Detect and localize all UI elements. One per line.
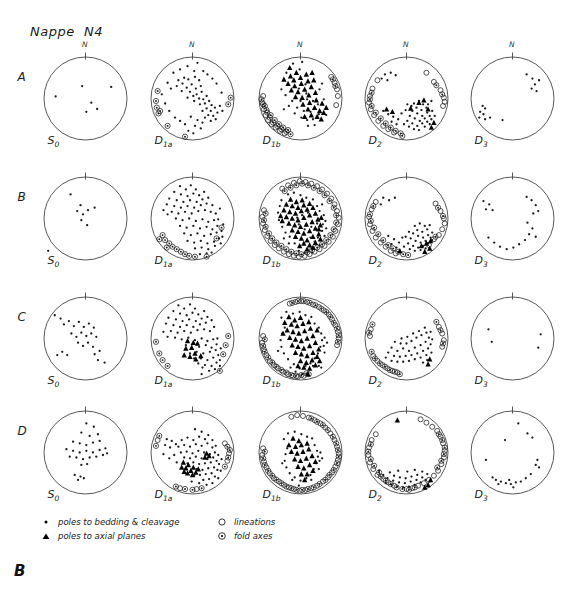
pole-bedding-point	[321, 223, 323, 225]
pole-bedding-point	[178, 312, 180, 314]
pole-bedding-point	[213, 244, 215, 246]
pole-bedding-point	[512, 246, 514, 248]
column-label-text: D	[155, 254, 163, 267]
pole-bedding-point	[166, 213, 168, 215]
pole-bedding-point	[211, 228, 213, 230]
pole-bedding-point	[81, 84, 83, 86]
pole-axial-plane-point	[298, 80, 303, 85]
pole-bedding-point	[316, 103, 318, 105]
fold-axis-point	[222, 464, 227, 469]
pole-bedding-point	[305, 98, 307, 100]
pole-bedding-point	[534, 463, 536, 465]
pole-bedding-point	[181, 219, 183, 221]
pole-bedding-point	[531, 436, 533, 438]
pole-bedding-point	[173, 204, 175, 206]
pole-axial-plane-point	[293, 199, 298, 204]
pole-axial-plane-point	[304, 353, 309, 358]
pole-bedding-point	[173, 190, 175, 192]
fold-axis-point	[153, 443, 158, 448]
pole-bedding-point	[180, 89, 182, 91]
pole-bedding-point	[178, 119, 180, 121]
lineation-point	[374, 77, 379, 82]
pole-bedding-point	[531, 227, 533, 229]
pole-bedding-point	[176, 331, 178, 333]
legend-label-poles-bedding: poles to bedding & cleavage	[58, 517, 179, 527]
stereonet-primitive-circle	[471, 57, 554, 140]
stereonet-primitive-circle	[365, 297, 448, 380]
fold-axis-point	[441, 451, 446, 456]
pole-bedding-point	[187, 78, 189, 80]
legend-label-lineations: lineations	[234, 517, 275, 527]
pole-bedding-point	[217, 353, 219, 355]
pole-axial-plane-point	[304, 471, 309, 476]
column-label-d1a-row-d: D1a	[155, 488, 173, 503]
pole-axial-plane-point	[300, 101, 305, 106]
pole-bedding-point	[93, 206, 95, 208]
pole-axial-plane-point	[298, 338, 303, 343]
pole-bedding-point	[199, 239, 201, 241]
pole-bedding-point	[168, 197, 170, 199]
pole-bedding-point	[188, 199, 190, 201]
pole-bedding-point	[202, 69, 204, 71]
pole-bedding-point	[205, 225, 207, 227]
pole-bedding-point	[491, 476, 493, 478]
pole-bedding-point	[201, 366, 203, 368]
pole-bedding-point	[80, 463, 82, 465]
pole-bedding-point	[304, 314, 306, 316]
pole-bedding-point	[193, 124, 195, 126]
pole-bedding-point	[411, 332, 413, 334]
stereonet-primitive-circle	[151, 297, 234, 380]
pole-bedding-point	[409, 237, 411, 239]
pole-bedding-point	[416, 228, 418, 230]
pole-bedding-point	[162, 453, 164, 455]
pole-bedding-point	[533, 83, 535, 85]
fold-axis-point	[440, 340, 445, 345]
pole-bedding-point	[213, 475, 215, 477]
pole-bedding-point	[406, 470, 408, 472]
pole-bedding-point	[501, 118, 503, 120]
pole-axial-plane-point	[301, 328, 306, 333]
pole-axial-plane-point	[306, 228, 311, 233]
pole-bedding-point	[411, 122, 413, 124]
pole-bedding-point	[517, 422, 519, 424]
pole-bedding-point	[78, 451, 80, 453]
pole-bedding-point	[384, 356, 386, 358]
pole-bedding-point	[423, 125, 425, 127]
pole-bedding-point	[86, 209, 88, 211]
legend: poles to bedding & cleavage poles to axi…	[40, 516, 370, 550]
pole-axial-plane-point	[312, 210, 317, 215]
pole-bedding-point	[183, 210, 185, 212]
stereonet-primitive-circle	[365, 57, 448, 140]
pole-bedding-point	[289, 366, 291, 368]
pole-bedding-point	[523, 238, 525, 240]
lineation-point	[288, 414, 293, 419]
pole-bedding-point	[189, 233, 191, 235]
pole-bedding-point	[426, 233, 428, 235]
pole-bedding-point	[392, 354, 394, 356]
lineation-point	[370, 466, 375, 471]
pole-bedding-point	[317, 113, 319, 115]
pole-bedding-point	[193, 99, 195, 101]
pole-bedding-point	[195, 200, 197, 202]
fold-axis-point	[293, 373, 298, 378]
pole-bedding-point	[425, 331, 427, 333]
stereonet-d-d1b	[252, 404, 349, 501]
pole-bedding-point	[424, 340, 426, 342]
pole-axial-plane-point	[309, 452, 314, 457]
pole-bedding-point	[282, 438, 284, 440]
north-label-col-2: N	[297, 40, 303, 49]
pole-axial-plane-point	[292, 83, 297, 88]
pole-bedding-point	[210, 472, 212, 474]
pole-bedding-point	[280, 316, 282, 318]
pole-bedding-point	[215, 361, 217, 363]
fold-axis-point	[336, 332, 341, 337]
pole-bedding-point	[210, 251, 212, 253]
pole-axial-plane-point	[295, 88, 300, 93]
pole-axial-plane-point	[307, 325, 312, 330]
pole-bedding-point	[193, 307, 195, 309]
pole-bedding-point	[514, 481, 516, 483]
pole-bedding-point	[430, 118, 432, 120]
pole-bedding-point	[310, 478, 312, 480]
pole-bedding-point	[194, 87, 196, 89]
pole-bedding-point	[411, 232, 413, 234]
